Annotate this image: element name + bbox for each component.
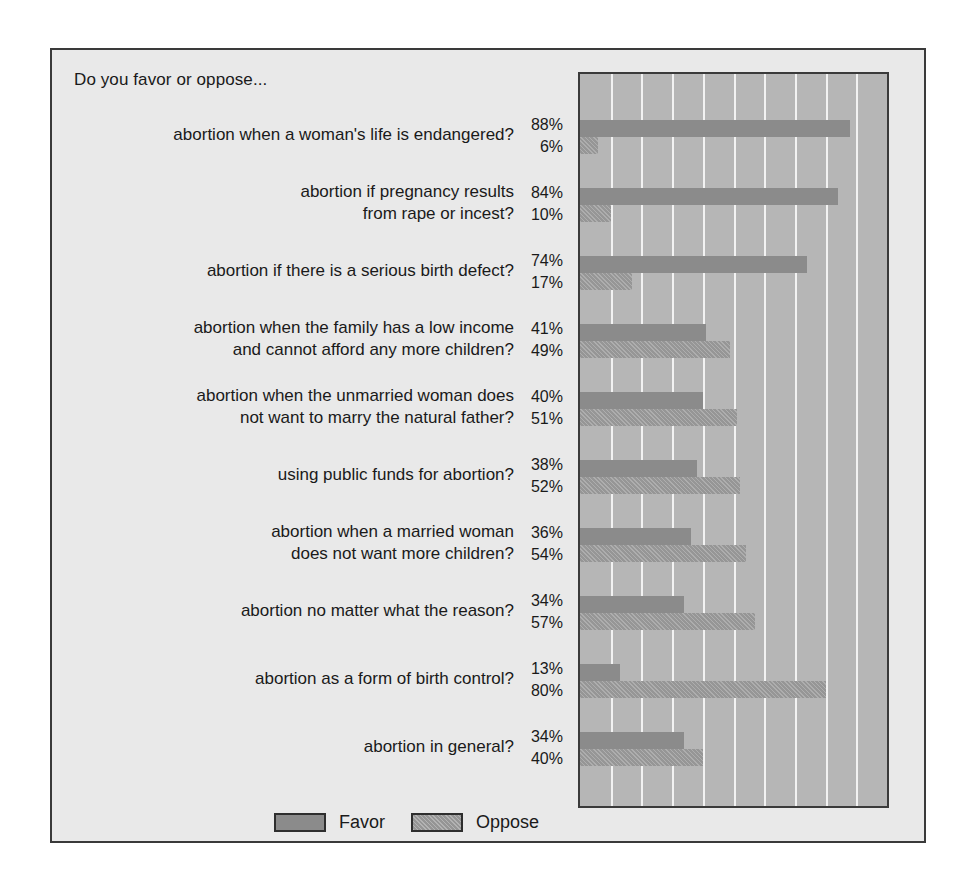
bar-favor — [580, 664, 620, 681]
value-labels: 36%54% — [517, 522, 563, 566]
bar-favor — [580, 120, 850, 137]
category-label: abortion when a woman's life is endanger… — [173, 124, 514, 146]
category-label: abortion no matter what the reason? — [241, 600, 514, 622]
figure-frame: Do you favor or oppose... abortion when … — [50, 48, 926, 843]
value-label-favor: 34% — [517, 590, 563, 612]
category-label: using public funds for abortion? — [278, 464, 514, 486]
value-label-favor: 74% — [517, 250, 563, 272]
legend-swatch-oppose — [411, 813, 463, 832]
value-label-oppose: 6% — [517, 136, 563, 158]
legend-item-oppose: Oppose — [411, 812, 539, 833]
value-label-favor: 34% — [517, 726, 563, 748]
bar-oppose — [580, 409, 737, 426]
value-label-oppose: 17% — [517, 272, 563, 294]
category-label: abortion when the family has a low incom… — [194, 317, 514, 361]
bar-favor — [580, 596, 684, 613]
bar-oppose — [580, 477, 740, 494]
value-label-oppose: 51% — [517, 408, 563, 430]
plot-area — [578, 72, 889, 808]
value-label-oppose: 40% — [517, 748, 563, 770]
bar-oppose — [580, 545, 746, 562]
value-label-oppose: 49% — [517, 340, 563, 362]
value-label-oppose: 52% — [517, 476, 563, 498]
value-label-favor: 40% — [517, 386, 563, 408]
legend-item-favor: Favor — [274, 812, 385, 833]
category-labels-column: abortion when a woman's life is endanger… — [52, 50, 578, 841]
chart-legend: FavorOppose — [274, 812, 539, 833]
value-label-oppose: 10% — [517, 204, 563, 226]
bar-oppose — [580, 613, 755, 630]
value-label-oppose: 54% — [517, 544, 563, 566]
gridline — [856, 74, 858, 806]
value-labels: 84%10% — [517, 182, 563, 226]
value-label-oppose: 57% — [517, 612, 563, 634]
category-label: abortion when the unmarried woman does n… — [196, 385, 514, 429]
category-label: abortion if there is a serious birth def… — [207, 260, 514, 282]
value-label-favor: 36% — [517, 522, 563, 544]
bar-oppose — [580, 273, 632, 290]
legend-label-favor: Favor — [339, 812, 385, 833]
value-labels: 13%80% — [517, 658, 563, 702]
value-labels: 34%57% — [517, 590, 563, 634]
bar-oppose — [580, 137, 598, 154]
value-labels: 34%40% — [517, 726, 563, 770]
value-label-oppose: 80% — [517, 680, 563, 702]
legend-label-oppose: Oppose — [476, 812, 539, 833]
value-labels: 88%6% — [517, 114, 563, 158]
category-label: abortion if pregnancy results from rape … — [300, 181, 514, 225]
value-label-favor: 84% — [517, 182, 563, 204]
bar-favor — [580, 460, 697, 477]
bar-favor — [580, 256, 807, 273]
category-label: abortion as a form of birth control? — [255, 668, 514, 690]
chart-page: Do you favor or oppose... abortion when … — [0, 0, 963, 880]
bar-oppose — [580, 205, 611, 222]
value-labels: 74%17% — [517, 250, 563, 294]
bar-favor — [580, 392, 703, 409]
value-label-favor: 41% — [517, 318, 563, 340]
bar-oppose — [580, 681, 826, 698]
value-labels: 41%49% — [517, 318, 563, 362]
bar-oppose — [580, 749, 703, 766]
value-label-favor: 13% — [517, 658, 563, 680]
bar-favor — [580, 528, 691, 545]
category-label: abortion when a married woman does not w… — [271, 521, 514, 565]
bar-favor — [580, 324, 706, 341]
bar-favor — [580, 188, 838, 205]
value-labels: 40%51% — [517, 386, 563, 430]
value-labels: 38%52% — [517, 454, 563, 498]
legend-swatch-favor — [274, 813, 326, 832]
category-label: abortion in general? — [364, 736, 514, 758]
value-label-favor: 88% — [517, 114, 563, 136]
bar-oppose — [580, 341, 730, 358]
gridline — [826, 74, 828, 806]
bar-favor — [580, 732, 684, 749]
value-label-favor: 38% — [517, 454, 563, 476]
